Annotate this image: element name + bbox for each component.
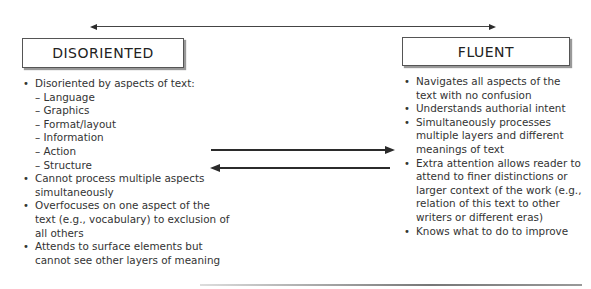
fluent-title: FLUENT — [458, 44, 514, 60]
sub-item: – Format/layout — [35, 118, 230, 132]
arrow-head-right-icon — [489, 24, 496, 30]
sub-item: – Graphics — [35, 104, 230, 118]
fluent-title-box: FLUENT — [402, 37, 570, 66]
arrow-head-right-icon — [385, 146, 395, 154]
list-item: Extra attention allows reader to attend … — [401, 157, 591, 225]
list-item: Attends to surface elements but cannot s… — [20, 240, 235, 267]
list-item: Knows what to do to improve — [401, 225, 591, 239]
sub-item: – Information — [35, 131, 230, 145]
bottom-divider — [200, 284, 582, 286]
list-item: Simultaneously processes multiple layers… — [401, 116, 576, 157]
arrow-head-left-icon — [210, 164, 220, 172]
sub-item: – Structure — [35, 159, 230, 173]
list-item: Overfocuses on one aspect of the text (e… — [20, 199, 230, 240]
aspect-sublist: – Language – Graphics – Format/layout – … — [35, 91, 230, 173]
list-item: Cannot process multiple aspects simultan… — [20, 172, 220, 199]
top-arrow-line — [96, 26, 490, 27]
sub-item: – Language — [35, 91, 230, 105]
list-item: Understands authorial intent — [401, 102, 591, 116]
list-item: Disoriented by aspects of text: – Langua… — [20, 77, 230, 172]
arrow-head-left-icon — [90, 24, 97, 30]
list-item: Navigates all aspects of the text with n… — [401, 75, 571, 102]
arrow-line — [216, 167, 390, 169]
disoriented-title-box: DISORIENTED — [22, 38, 184, 68]
disoriented-title: DISORIENTED — [52, 45, 154, 61]
arrow-line — [211, 149, 387, 151]
fluent-list: Navigates all aspects of the text with n… — [401, 75, 591, 238]
disoriented-list: Disoriented by aspects of text: – Langua… — [20, 77, 230, 267]
sub-item: – Action — [35, 145, 230, 159]
